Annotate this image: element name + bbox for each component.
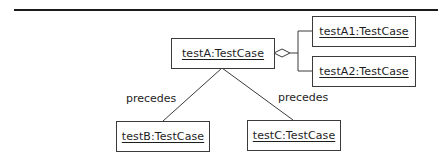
object-testB-label: testB:TestCase bbox=[122, 130, 204, 143]
object-testA: testA:TestCase bbox=[171, 38, 275, 69]
object-testA1-label: testA1:TestCase bbox=[319, 25, 408, 38]
object-testA-label: testA:TestCase bbox=[182, 47, 264, 60]
object-testA1: testA1:TestCase bbox=[312, 16, 416, 47]
precedes-label-left: precedes bbox=[126, 92, 176, 105]
uml-object-diagram: testA:TestCase testA1:TestCase testA2:Te… bbox=[0, 0, 438, 167]
precedes-label-right: precedes bbox=[278, 91, 328, 104]
aggregation-diamond-icon bbox=[274, 49, 290, 57]
object-testA2-label: testA2:TestCase bbox=[319, 65, 408, 78]
object-testB: testB:TestCase bbox=[116, 121, 210, 152]
object-testC-label: testC:TestCase bbox=[253, 129, 336, 142]
object-testA2: testA2:TestCase bbox=[312, 56, 416, 87]
object-testC: testC:TestCase bbox=[247, 120, 341, 151]
